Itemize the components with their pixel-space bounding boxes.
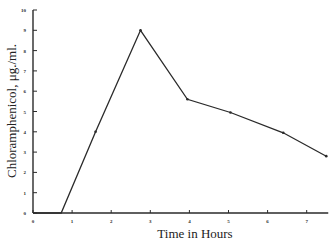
data-series — [33, 29, 328, 213]
x-tick-label: 2 — [110, 219, 113, 224]
line-chart: 01234567891001234567 — [0, 0, 332, 248]
x-tick-label: 3 — [149, 219, 152, 224]
x-tick-label: 4 — [188, 219, 191, 224]
data-point-marker — [139, 29, 142, 32]
x-tick-label: 0 — [32, 219, 35, 224]
y-tick-label: 6 — [24, 89, 27, 94]
y-tick-label: 1 — [24, 191, 27, 196]
data-line — [33, 30, 326, 213]
y-tick-label: 3 — [24, 150, 27, 155]
y-tick-label: 5 — [24, 110, 27, 115]
y-tick-label: 0 — [24, 211, 27, 216]
y-tick-label: 9 — [24, 28, 27, 33]
y-tick-label: 2 — [24, 170, 27, 175]
data-point-marker — [186, 98, 189, 101]
axes — [33, 10, 328, 213]
tick-marks: 01234567891001234567 — [21, 8, 308, 224]
x-axis-label: Time in Hours — [130, 226, 260, 242]
y-axis-label: Chloramphenicol, μg./ml. — [4, 36, 22, 186]
y-tick-label: 4 — [24, 130, 27, 135]
y-tick-label: 7 — [24, 69, 27, 74]
x-tick-label: 1 — [71, 219, 74, 224]
x-tick-label: 7 — [305, 219, 308, 224]
x-tick-label: 6 — [266, 219, 269, 224]
data-point-marker — [325, 155, 328, 158]
y-tick-label: 10 — [21, 8, 27, 13]
data-point-marker — [229, 111, 232, 114]
y-tick-label: 8 — [24, 49, 27, 54]
data-point-marker — [94, 131, 97, 134]
x-tick-label: 5 — [227, 219, 230, 224]
data-point-marker — [282, 132, 285, 135]
